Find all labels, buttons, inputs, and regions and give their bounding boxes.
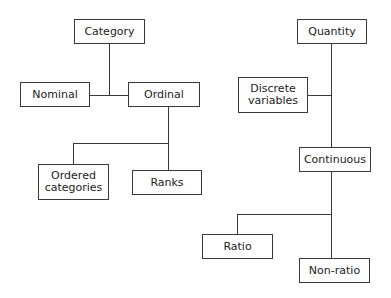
node-discrete-variables-line2: variables bbox=[248, 95, 298, 107]
node-nominal-label: Nominal bbox=[32, 89, 78, 101]
node-ranks: Ranks bbox=[132, 170, 202, 195]
connector-ratio-branch bbox=[237, 214, 332, 215]
node-ordered-categories-line2: categories bbox=[45, 182, 103, 194]
node-ratio-label: Ratio bbox=[223, 241, 251, 253]
node-continuous: Continuous bbox=[299, 147, 371, 172]
node-non-ratio: Non-ratio bbox=[299, 258, 370, 283]
node-ranks-label: Ranks bbox=[150, 177, 183, 189]
connector-category-stem bbox=[109, 43, 110, 95]
diagram-canvas: Category Nominal Ordinal Ordered categor… bbox=[0, 0, 391, 298]
node-ordinal-label: Ordinal bbox=[144, 89, 184, 101]
node-ordered-categories: Ordered categories bbox=[38, 164, 109, 200]
connector-discrete bbox=[307, 95, 331, 96]
node-discrete-variables: Discrete variables bbox=[238, 77, 308, 113]
node-non-ratio-label: Non-ratio bbox=[309, 265, 360, 277]
connector-ratio bbox=[237, 214, 238, 234]
node-quantity: Quantity bbox=[297, 19, 367, 44]
connector-quantity-stem bbox=[331, 43, 332, 147]
node-nominal: Nominal bbox=[20, 82, 90, 107]
connector-ordinal-branch bbox=[73, 143, 169, 144]
node-category: Category bbox=[74, 19, 145, 44]
node-quantity-label: Quantity bbox=[308, 26, 356, 38]
node-ratio: Ratio bbox=[202, 234, 273, 259]
connector-ordered-categories bbox=[73, 143, 74, 164]
connector-ordinal-stem bbox=[168, 106, 169, 170]
node-category-label: Category bbox=[84, 26, 134, 38]
node-ordinal: Ordinal bbox=[128, 82, 200, 107]
connector-nominal-ordinal bbox=[89, 95, 128, 96]
node-continuous-label: Continuous bbox=[304, 154, 366, 166]
